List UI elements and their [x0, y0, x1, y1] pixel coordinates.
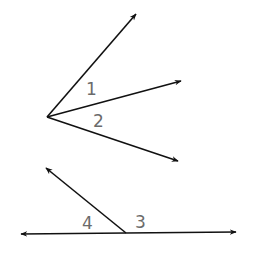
angle-diagram: 1243: [0, 0, 278, 253]
line-left-arrow-icon: [21, 233, 126, 234]
angle-label-2: 2: [93, 111, 104, 131]
line-right-arrow-icon: [126, 232, 236, 233]
ray-upper-arrow-icon: [47, 14, 136, 117]
angle-label-3: 3: [135, 212, 146, 232]
figure-bottom: 43: [21, 168, 236, 234]
angle-label-4: 4: [82, 213, 93, 233]
ray-lower-arrow-icon: [47, 117, 178, 161]
figure-top: 12: [47, 14, 181, 161]
angle-label-1: 1: [86, 79, 97, 99]
ray-middle-arrow-icon: [47, 81, 181, 117]
